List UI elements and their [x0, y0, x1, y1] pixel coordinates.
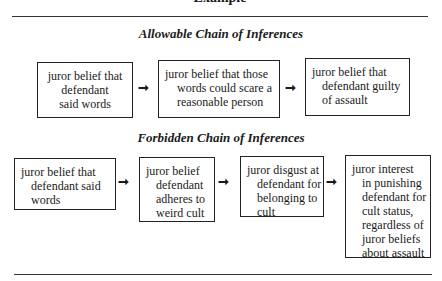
forbidden-box-3: juror disgust at defendant for belonging…: [240, 156, 324, 217]
allowable-box-3: juror belief that defendant guilty of as…: [305, 58, 410, 116]
arrow-icon: ➞: [326, 174, 337, 190]
forbidden-box-2: juror belief defendant adheres to weird …: [139, 157, 215, 222]
arrow-icon: ➞: [118, 174, 129, 190]
allowable-box-1: juror belief that defendant said words: [37, 62, 133, 118]
arrow-icon: ➞: [218, 174, 229, 190]
forbidden-heading: Forbidden Chain of Inferences: [0, 130, 442, 146]
arrow-icon: ➞: [138, 80, 149, 96]
forbidden-box-4: juror interest in punishing defendant fo…: [345, 155, 431, 258]
bottom-rule: [14, 274, 432, 275]
top-rule: [12, 16, 428, 17]
arrow-icon: ➞: [285, 80, 296, 96]
cut-off-title: Example: [150, 0, 290, 6]
allowable-box-2: juror belief that those words could scar…: [158, 60, 280, 118]
allowable-heading: Allowable Chain of Inferences: [0, 26, 442, 42]
forbidden-box-1: juror belief that defendant said words: [14, 158, 116, 210]
